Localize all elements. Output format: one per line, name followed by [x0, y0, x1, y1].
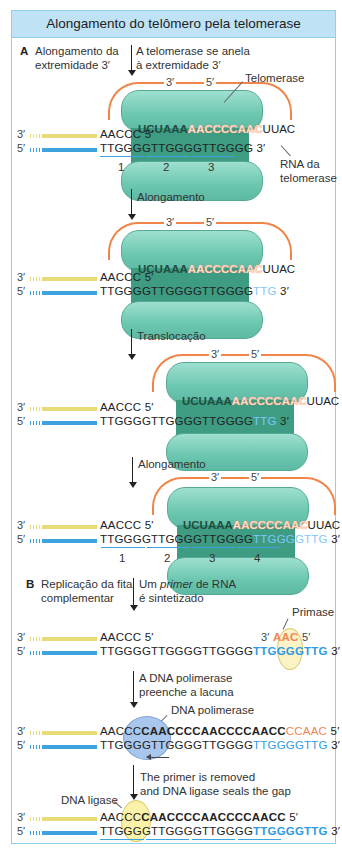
step-b2-caption-line2: preenche a lacuna	[139, 685, 234, 699]
repeat-number: 1	[119, 552, 125, 564]
telomere-sequence: TTGGGGTTGGGGTTGGGGTTG 3′	[100, 285, 289, 297]
diagram-frame: Alongamento do telômero pela telomerase …	[11, 10, 336, 844]
step-b2-caption: A DNA polimerase preenche a lacuna	[139, 671, 234, 699]
caption-emphasis: primer	[160, 578, 193, 590]
step-a3-caption: Translocação	[137, 329, 206, 343]
template-sequence: AACCC 5′	[100, 631, 154, 643]
loop-3-prime: 3′	[164, 216, 176, 228]
template-sequence: AACCC 5′	[100, 401, 154, 413]
template-sequence: AACCC 5′	[100, 271, 154, 283]
telomere-3-end: 3′	[331, 533, 340, 545]
loop-5-prime: 5′	[249, 348, 261, 360]
caption-text: Um	[139, 578, 160, 590]
rna-label-line2: telomerase	[280, 171, 337, 185]
rna-suffix: UUAC	[263, 263, 296, 275]
diagram-title: Alongamento do telômero pela telomerase	[12, 11, 335, 38]
loop-5-prime: 5′	[249, 471, 261, 483]
telomere-5-end: 5′	[17, 142, 25, 154]
rna-template: AACCCCAAC	[232, 395, 307, 407]
template-3-end: 3′	[17, 725, 25, 737]
telomere-3-end: 3′	[331, 645, 340, 657]
telomere-3-end: 3′	[331, 739, 340, 751]
primer-3-end: 3′	[261, 631, 270, 643]
template-5-end: 5′	[289, 811, 298, 823]
template-3-end: 3′	[17, 811, 25, 823]
template-strand	[42, 407, 97, 411]
telomere-sequence: TTGGGGTTGGGGTTGGGGTTGGGGTTG 3′	[100, 739, 340, 751]
down-arrow-icon	[131, 45, 132, 71]
rna-template-sequence: UCUAAAAACCCCAACUUAC	[138, 123, 295, 135]
telomere-seq: TTGGGGTTGGGGTTGGGG	[100, 739, 253, 751]
telomere-3-end: 3′	[280, 415, 289, 427]
telomere-3-end: 3′	[331, 825, 340, 837]
caption-text: de RNA	[193, 578, 236, 590]
telomere-seq: TTGGGGTTGGGGTTGGGG	[100, 415, 253, 427]
rna-template-sequence: UCUAAAAACCCCAACUUAC	[182, 395, 339, 407]
down-arrow-icon	[133, 578, 134, 606]
telomere-seq: TTGGGGTTGGGGTTGGGG	[100, 533, 253, 545]
step-a2-caption: Alongamento	[137, 190, 205, 204]
step-a1-caption-line1: A telomerase se anela	[136, 44, 250, 58]
repeat-underline-4	[237, 547, 280, 548]
down-arrow-icon	[133, 765, 134, 795]
step-b1-caption-line2: é sintetizado	[139, 591, 236, 605]
new-repeat: TTGGGGTTG	[253, 645, 328, 657]
template-3-end: 3′	[17, 401, 25, 413]
step-b3-caption-line2: and DNA ligase seals the gap	[140, 784, 291, 798]
rna-label-line1: RNA da	[280, 157, 337, 171]
telomere-5-end: 5′	[17, 645, 25, 657]
telomere-sequence: TTGGGGTTGGGGTTGGGG 3′	[100, 142, 265, 154]
repeat-underline-4	[238, 839, 281, 840]
rna-prefix: UCUAAA	[183, 519, 233, 531]
telomere-5-end: 5′	[17, 825, 25, 837]
section-a-label: Alongamento da extremidade 3′	[35, 44, 119, 72]
telomere-5-end: 5′	[17, 285, 25, 297]
rna-template: AACCCCAAC	[233, 519, 308, 531]
rna-pointer	[281, 145, 291, 156]
telomere-5-end: 5′	[17, 415, 25, 427]
section-b-label: Replicação da fita complementar	[41, 577, 132, 605]
repeat-underline-3	[191, 156, 234, 157]
loop-3-prime: 3′	[164, 76, 176, 88]
telomere-5-end: 5′	[17, 739, 25, 751]
step-a1-caption-line2: à extremidade 3′	[136, 58, 250, 72]
telomere-seq: TTGGGGTTGGGGTTGGGG	[100, 645, 253, 657]
template-3-end: 3′	[17, 631, 25, 643]
repeat-underline-1	[100, 839, 144, 840]
ligase-label: DNA ligase	[61, 793, 118, 807]
repeat-number: 3	[209, 552, 215, 564]
section-b-label-line2: complementar	[41, 591, 132, 605]
telomere-strand	[42, 291, 97, 295]
primase-label: Primase	[292, 605, 334, 619]
template-3-end: 3′	[17, 519, 25, 531]
new-repeat: TTGGGGTTG	[253, 825, 328, 837]
new-dna: CAACCCCAACCCCAACC	[141, 725, 286, 737]
template-3-end: 3′	[17, 128, 25, 140]
rna-prefix: UCUAAA	[182, 395, 232, 407]
repeat-underline-3	[192, 547, 235, 548]
template-seq: AACCC	[100, 725, 141, 737]
repeat-underline-2	[146, 839, 189, 840]
template-strand	[42, 817, 97, 821]
loop-5-prime: 5′	[204, 76, 216, 88]
primer-5-end: 5′	[302, 631, 311, 643]
telomere-strand	[42, 148, 97, 152]
down-arrow-icon	[131, 329, 132, 355]
step-b2-caption-line1: A DNA polimerase	[139, 671, 234, 685]
template-5-end: 5′	[331, 725, 340, 737]
template-strand	[42, 277, 97, 281]
telomere-seq: TTGGGGTTGGGGTTGGGG	[100, 142, 253, 154]
section-a-label-line2: extremidade 3′	[35, 58, 119, 72]
step-b1-caption: Um primer de RNA é sintetizado	[139, 577, 236, 605]
repeat-underline-2	[147, 547, 190, 548]
loop-3-prime: 3′	[209, 471, 221, 483]
down-arrow-icon	[133, 671, 134, 703]
section-b-label-line1: Replicação da fita	[41, 577, 132, 591]
rna-primer: 3′ AAC 5′	[261, 631, 311, 643]
template-strand	[42, 525, 97, 529]
telomere-5-end: 5′	[17, 533, 25, 545]
new-nucleotides: TTG	[253, 285, 277, 297]
rna-template-sequence: UCUAAAAACCCCAACUUAC	[138, 263, 295, 275]
repeat-underline-3	[192, 839, 235, 840]
repeat-number: 2	[163, 161, 169, 173]
